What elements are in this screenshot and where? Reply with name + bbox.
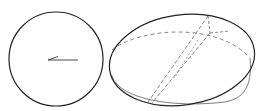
ellipse-figure — [103, 5, 260, 111]
outer-circle — [9, 12, 103, 106]
arrow-left-icon — [48, 57, 78, 61]
diagram-svg — [0, 0, 260, 111]
dashed-equator — [112, 32, 248, 56]
dashed-diagonal-1 — [148, 16, 208, 102]
diagram-canvas — [0, 0, 260, 111]
circle-figure — [9, 12, 103, 106]
dashed-radius — [210, 31, 230, 33]
dashed-diagonal-2 — [152, 33, 210, 103]
dashed-vertical — [208, 16, 210, 33]
main-ellipse — [103, 5, 260, 111]
